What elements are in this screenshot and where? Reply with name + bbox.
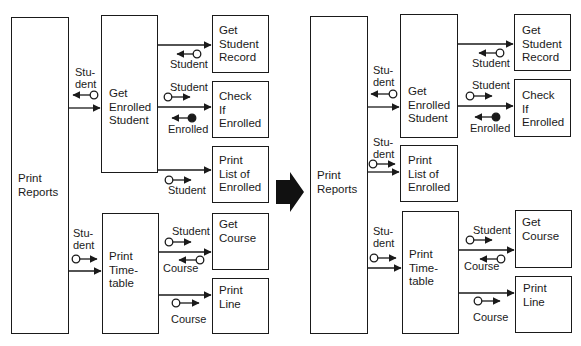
module-check-if-enrolled: Check If Enrolled	[212, 81, 269, 138]
module-label: Get Enrolled Student	[408, 85, 450, 126]
module-label: Print List of Enrolled	[408, 154, 450, 195]
module-label: Print Reports	[317, 169, 357, 196]
data-couple-icon	[496, 49, 504, 57]
data-couple-icon	[370, 254, 378, 262]
couple-label: Student	[472, 79, 510, 91]
control-flag-icon	[492, 113, 500, 121]
module-print-line: Print Line	[212, 278, 269, 334]
couple-label: Stu- dent	[73, 227, 94, 251]
couple-label: Student	[170, 81, 208, 93]
couple-label: Course	[473, 311, 508, 323]
module-label: Get Course	[522, 216, 559, 243]
transform-arrow-icon	[276, 172, 304, 212]
module-print-list-of-enrolled: Print List of Enrolled	[400, 145, 458, 202]
module-label: Print Line	[523, 282, 547, 309]
module-label: Get Student Record	[219, 24, 259, 65]
couple-label: Enrolled	[168, 123, 208, 135]
module-label: Print Time- table	[109, 250, 138, 291]
data-couple-icon	[193, 50, 201, 58]
module-label: Get Enrolled Student	[109, 87, 151, 128]
module-label: Get Course	[219, 218, 256, 245]
module-get-enrolled-student: Get Enrolled Student	[101, 15, 158, 173]
data-couple-icon	[389, 90, 397, 98]
couple-label: Student	[170, 58, 208, 70]
module-get-enrolled-student: Get Enrolled Student	[400, 14, 458, 138]
couple-label: Stu- dent	[373, 64, 394, 88]
couple-label: Student	[472, 57, 510, 69]
couple-label: Stu- dent	[75, 66, 96, 90]
module-get-student-record: Get Student Record	[212, 15, 269, 73]
module-label: Print List of Enrolled	[219, 154, 261, 195]
module-print-reports: Print Reports	[11, 17, 69, 334]
couple-label: Stu- dent	[373, 136, 394, 160]
data-couple-icon	[466, 92, 474, 100]
data-couple-icon	[369, 160, 377, 168]
couple-label: Stu- dent	[373, 225, 394, 249]
couple-label: Course	[163, 262, 198, 274]
module-get-course: Get Course	[515, 210, 572, 268]
data-couple-icon	[165, 176, 173, 184]
module-get-student-record: Get Student Record	[514, 14, 571, 71]
couple-label: Student	[473, 224, 511, 236]
data-couple-icon	[72, 255, 80, 263]
data-couple-icon	[164, 93, 172, 101]
couple-label: Student	[172, 225, 210, 237]
couple-label: Course	[464, 260, 499, 272]
structure-chart-connections	[0, 0, 581, 346]
data-couple-icon	[165, 238, 173, 246]
module-get-course: Get Course	[212, 213, 269, 270]
data-couple-icon	[172, 299, 180, 307]
module-check-if-enrolled: Check If Enrolled	[514, 79, 571, 137]
control-flag-icon	[188, 114, 196, 122]
module-label: Print Line	[219, 284, 243, 311]
module-print-list-of-enrolled: Print List of Enrolled	[212, 146, 269, 203]
module-print-reports: Print Reports	[310, 16, 368, 334]
couple-label: Course	[171, 313, 206, 325]
module-label: Check If Enrolled	[522, 89, 564, 130]
module-label: Print Time- table	[409, 248, 438, 289]
couple-label: Enrolled	[470, 122, 510, 134]
module-print-timetable: Print Time- table	[102, 213, 159, 334]
data-couple-icon	[474, 297, 482, 305]
module-label: Check If Enrolled	[219, 90, 261, 131]
couple-label: Student	[168, 184, 206, 196]
module-label: Get Student Record	[522, 24, 562, 65]
module-print-line: Print Line	[515, 276, 572, 333]
data-couple-icon	[466, 236, 474, 244]
module-print-timetable: Print Time- table	[402, 211, 459, 334]
module-label: Print Reports	[18, 172, 58, 199]
data-couple-icon	[90, 91, 98, 99]
